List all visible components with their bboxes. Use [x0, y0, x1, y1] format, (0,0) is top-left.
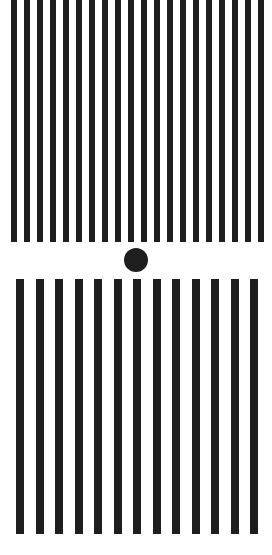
bottom-grating-bar	[55, 279, 63, 534]
top-grating-bar	[180, 0, 186, 242]
bottom-grating-bar	[211, 279, 219, 534]
bottom-grating-bar	[133, 279, 141, 534]
bottom-grating-bar	[75, 279, 83, 534]
bottom-grating-bar	[153, 279, 161, 534]
bottom-grating-bar	[172, 279, 180, 534]
top-grating-bar	[11, 0, 17, 242]
top-grating-bar	[258, 0, 264, 242]
top-grating-bar	[219, 0, 225, 242]
bottom-grating-bar	[192, 279, 200, 534]
top-grating-bar	[128, 0, 134, 242]
top-grating-bar	[167, 0, 173, 242]
bottom-grating-bar	[36, 279, 44, 534]
top-grating-bar	[154, 0, 160, 242]
top-grating-bar	[63, 0, 69, 242]
top-grating-bar	[115, 0, 121, 242]
bottom-grating-bar	[231, 279, 239, 534]
top-grating-bar	[37, 0, 43, 242]
top-grating-bar	[50, 0, 56, 242]
top-grating-bar	[232, 0, 238, 242]
bottom-grating-bar	[94, 279, 102, 534]
fixation-dot	[124, 248, 148, 272]
top-grating-bar	[206, 0, 212, 242]
top-grating-bar	[89, 0, 95, 242]
top-grating-bar	[141, 0, 147, 242]
bottom-grating-bar	[16, 279, 24, 534]
top-grating-bar	[193, 0, 199, 242]
top-grating-bar	[102, 0, 108, 242]
top-grating-bar	[245, 0, 251, 242]
bottom-grating-bar	[250, 279, 258, 534]
bottom-grating-bar	[114, 279, 122, 534]
top-grating-bar	[76, 0, 82, 242]
top-grating-bar	[24, 0, 30, 242]
